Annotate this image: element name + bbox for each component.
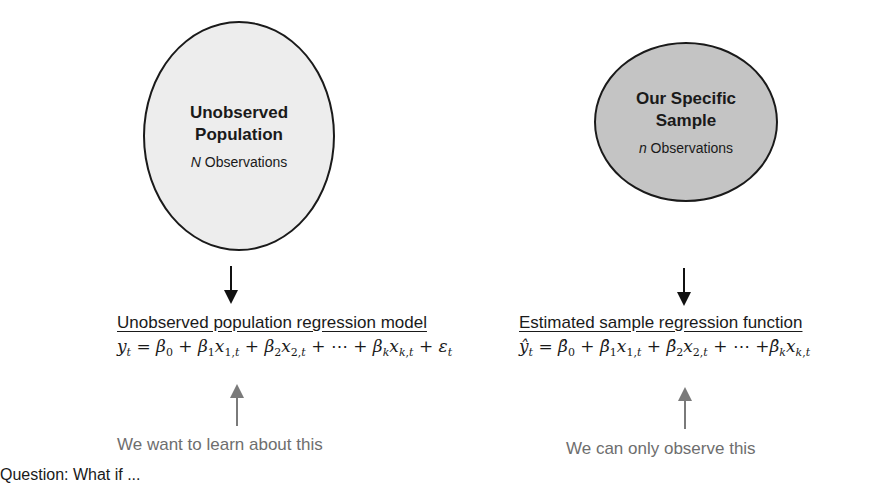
population-caption: We want to learn about this (117, 435, 323, 455)
sample-circle: Our Specific Sample n Observations (594, 42, 778, 202)
sample-count-label: Observations (647, 140, 733, 156)
population-title-line1: Unobserved (190, 102, 288, 124)
sample-title-line1: Our Specific (636, 88, 736, 110)
population-equation: yt = β0 + β1x1,t + β2x2,t + ⋯ + βkxk,t +… (117, 336, 452, 359)
population-circle: Unobserved Population N Observations (143, 21, 335, 251)
population-arrow-down-icon (230, 266, 232, 302)
sample-count: n Observations (639, 140, 733, 156)
population-count-symbol: N (191, 154, 201, 170)
sample-arrow-down-icon (683, 268, 685, 304)
population-title-line2: Population (195, 124, 283, 146)
footer-cut-text: Question: What if ... (0, 466, 141, 484)
sample-arrow-up-icon (684, 389, 686, 429)
population-count-label: Observations (201, 154, 287, 170)
sample-heading: Estimated sample regression function (519, 313, 802, 333)
population-heading: Unobserved population regression model (117, 313, 427, 333)
sample-caption: We can only observe this (566, 439, 756, 459)
population-count: N Observations (191, 154, 288, 170)
sample-title-line2: Sample (656, 110, 716, 132)
sample-equation: ŷt = β̂0 + β̂1x1,t + β̂2x2,t + ⋯ +β̂kxk,… (519, 336, 810, 359)
population-arrow-up-icon (236, 386, 238, 426)
sample-count-symbol: n (639, 140, 647, 156)
